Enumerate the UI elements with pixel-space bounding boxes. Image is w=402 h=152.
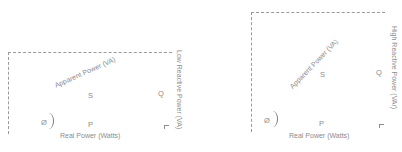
symbol-p: P	[319, 120, 324, 128]
right-angle-marker-icon	[379, 124, 384, 128]
reactive-power-axis-label: High Reactive Power (VAr)	[391, 26, 398, 109]
apparent-power-label: Apparent Power (VA)	[288, 38, 339, 90]
symbol-s: S	[320, 71, 325, 79]
symbol-q: Q	[376, 69, 382, 77]
power-triangle-high-reactive: High Reactive Power (VAr) Apparent Power…	[0, 0, 402, 152]
dashed-top-line	[251, 12, 385, 13]
angle-arc-icon	[267, 111, 278, 127]
real-power-axis-label: Real Power (Watts)	[289, 132, 349, 139]
dashed-left-line	[251, 12, 252, 132]
